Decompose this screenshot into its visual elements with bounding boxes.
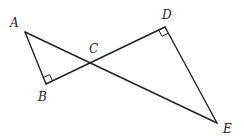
point-label-e: E bbox=[222, 122, 232, 136]
point-label-c: C bbox=[89, 42, 98, 56]
point-label-d: D bbox=[161, 8, 172, 22]
point-label-a: A bbox=[9, 16, 19, 30]
point-label-b: B bbox=[37, 90, 47, 104]
segment-ae bbox=[25, 32, 217, 123]
segment-bd bbox=[46, 27, 165, 84]
segment-de bbox=[165, 27, 217, 123]
geometry-diagram: A B C D E bbox=[0, 0, 244, 138]
